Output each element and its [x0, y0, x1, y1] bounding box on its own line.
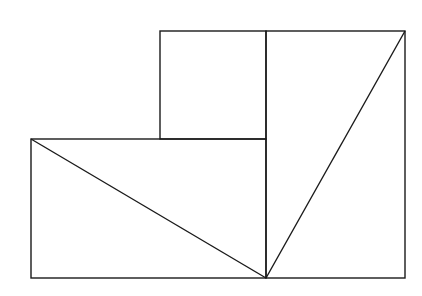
small-square — [160, 31, 266, 139]
geometric-diagram — [0, 0, 422, 296]
left-diagonal — [31, 139, 266, 278]
right-diagonal — [266, 31, 405, 278]
